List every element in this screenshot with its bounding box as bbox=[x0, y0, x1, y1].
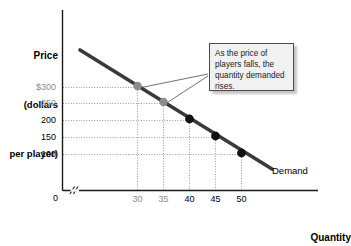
y-tick-label-150: 150 bbox=[22, 132, 56, 143]
leader-line-to-point-30 bbox=[139, 74, 208, 88]
axis-break-mask bbox=[71, 189, 80, 191]
x-tick-label-35: 35 bbox=[153, 194, 175, 205]
leader-line-to-point-35 bbox=[165, 76, 208, 104]
annotation-callout: As the price of players falls, the quant… bbox=[209, 43, 294, 91]
y-tick-label-250: 250 bbox=[22, 98, 56, 109]
x-tick-label-40: 40 bbox=[179, 194, 201, 205]
demand-curve-figure: Price (dollars per player) Quantity (mil… bbox=[0, 0, 351, 246]
data-point-45-150 bbox=[211, 132, 220, 141]
data-point-35-250 bbox=[159, 98, 167, 106]
demand-curve-label: Demand bbox=[272, 165, 308, 176]
data-point-30-300 bbox=[133, 82, 141, 90]
data-point-40-200 bbox=[185, 115, 194, 124]
x-tick-label-45: 45 bbox=[205, 194, 227, 205]
horizontal-gridlines bbox=[63, 88, 241, 155]
origin-label: 0 bbox=[44, 193, 58, 204]
annotation-callout-text: As the price of players falls, the quant… bbox=[215, 48, 293, 92]
y-tick-label-300: $300 bbox=[22, 82, 56, 93]
y-axis-title-main: Price bbox=[0, 50, 58, 62]
y-tick-label-100: 100 bbox=[22, 149, 56, 160]
x-axis-title-main: Quantity bbox=[213, 232, 351, 244]
data-point-50-100 bbox=[237, 149, 246, 158]
y-tick-label-200: 200 bbox=[22, 115, 56, 126]
x-tick-label-30: 30 bbox=[127, 194, 149, 205]
callout-leader-lines bbox=[139, 74, 208, 104]
x-tick-label-50: 50 bbox=[231, 194, 253, 205]
